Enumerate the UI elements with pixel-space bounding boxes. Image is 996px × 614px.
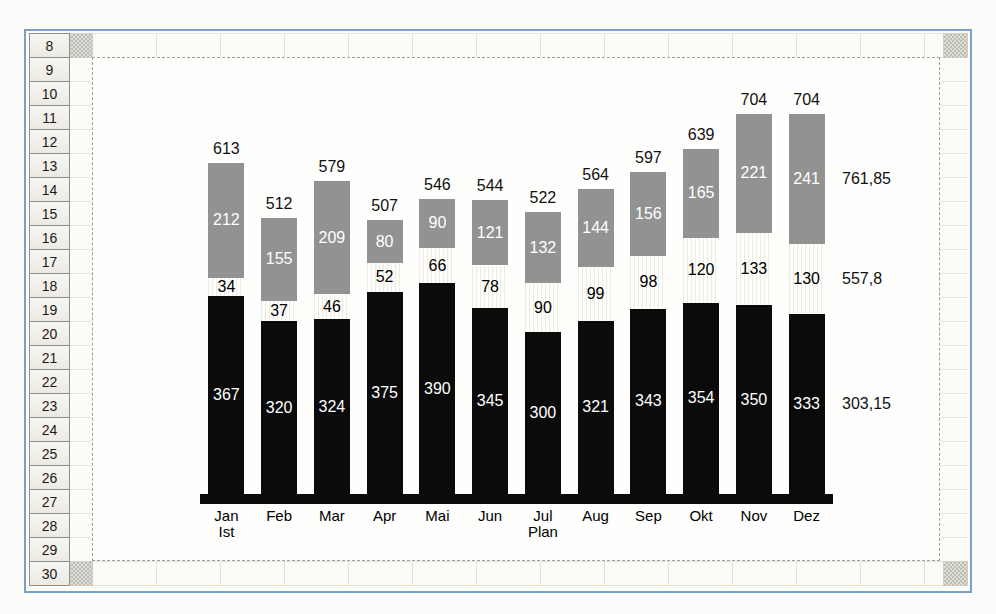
segment-value-label: 132 [530, 240, 557, 256]
bar-segment-middle-white-segment[interactable]: 78 [472, 266, 508, 308]
bar-total-label: 544 [460, 176, 520, 196]
shaded-cell-bottom-right[interactable] [943, 561, 968, 586]
bar-total-label: 512 [249, 194, 309, 214]
segment-value-label: 99 [587, 286, 605, 302]
bar-segment-bottom-black-segment[interactable]: 343 [630, 309, 666, 494]
bar-segment-middle-white-segment[interactable]: 37 [261, 301, 297, 321]
bar-segment-top-gray-segment[interactable]: 144 [578, 189, 614, 267]
row-header-cell[interactable]: 11 [29, 105, 70, 130]
bar-segment-middle-white-segment[interactable]: 130 [789, 244, 825, 314]
segment-value-label: 321 [582, 399, 609, 415]
bar-total-label: 597 [618, 148, 678, 168]
row-header-cell[interactable]: 8 [29, 33, 70, 58]
bar-total-label: 613 [196, 139, 256, 159]
series-right-label: 303,15 [842, 394, 891, 414]
bar-segment-bottom-black-segment[interactable]: 345 [472, 308, 508, 494]
row-header-cell[interactable]: 29 [29, 537, 70, 562]
segment-value-label: 155 [266, 251, 293, 267]
bar-segment-middle-white-segment[interactable]: 66 [419, 248, 455, 284]
row-header-cell[interactable]: 26 [29, 465, 70, 490]
bar-total-label: 507 [355, 196, 415, 216]
bar-segment-middle-white-segment[interactable]: 98 [630, 256, 666, 309]
segment-value-label: 46 [323, 299, 341, 315]
row-header-cell[interactable]: 10 [29, 81, 70, 106]
row-header-cell[interactable]: 23 [29, 393, 70, 418]
bar-segment-top-gray-segment[interactable]: 156 [630, 172, 666, 256]
bar-segment-bottom-black-segment[interactable]: 333 [789, 314, 825, 494]
bar-segment-top-gray-segment[interactable]: 241 [789, 114, 825, 244]
row-header-cell[interactable]: 15 [29, 201, 70, 226]
row-header-cell[interactable]: 20 [29, 321, 70, 346]
bar-segment-bottom-black-segment[interactable]: 324 [314, 319, 350, 494]
shaded-cell-top-right[interactable] [943, 33, 968, 58]
row-header-cell[interactable]: 9 [29, 57, 70, 82]
x-axis-line [200, 494, 833, 504]
shaded-cell-top-left[interactable] [70, 33, 93, 58]
shaded-cell-bottom-left[interactable] [70, 561, 93, 586]
row-header-cell[interactable]: 14 [29, 177, 70, 202]
segment-value-label: 375 [371, 385, 398, 401]
bar-segment-bottom-black-segment[interactable]: 350 [736, 305, 772, 494]
bar-segment-top-gray-segment[interactable]: 80 [367, 220, 403, 263]
row-header-cell[interactable]: 30 [29, 561, 70, 586]
segment-value-label: 144 [582, 220, 609, 236]
row-header-cell[interactable]: 24 [29, 417, 70, 442]
bar-segment-bottom-black-segment[interactable]: 354 [683, 303, 719, 494]
segment-value-label: 78 [481, 279, 499, 295]
month-sublabel: Plan [513, 524, 573, 540]
bar-segment-middle-white-segment[interactable]: 34 [208, 278, 244, 296]
bar-segment-middle-white-segment[interactable]: 46 [314, 294, 350, 319]
bar-segment-bottom-black-segment[interactable]: 390 [419, 283, 455, 494]
row-header-cell[interactable]: 12 [29, 129, 70, 154]
row-header-cell[interactable]: 21 [29, 345, 70, 370]
bar-segment-top-gray-segment[interactable]: 165 [683, 149, 719, 238]
month-sublabel: Ist [196, 524, 256, 540]
bar-segment-bottom-black-segment[interactable]: 320 [261, 321, 297, 494]
bar-segment-top-gray-segment[interactable]: 209 [314, 181, 350, 294]
bar-segment-top-gray-segment[interactable]: 90 [419, 199, 455, 248]
row-header-cell[interactable]: 19 [29, 297, 70, 322]
bar-segment-top-gray-segment[interactable]: 221 [736, 114, 772, 233]
bar-segment-bottom-black-segment[interactable]: 321 [578, 321, 614, 494]
segment-value-label: 80 [376, 234, 394, 250]
bar-segment-middle-white-segment[interactable]: 90 [525, 283, 561, 332]
bar-total-label: 546 [407, 175, 467, 195]
segment-value-label: 156 [635, 206, 662, 222]
segment-value-label: 324 [319, 399, 346, 415]
bar-segment-middle-white-segment[interactable]: 52 [367, 263, 403, 291]
month-label: Sep [618, 508, 678, 524]
segment-value-label: 221 [741, 165, 768, 181]
bar-segment-middle-white-segment[interactable]: 99 [578, 267, 614, 321]
segment-value-label: 34 [217, 279, 235, 295]
bar-segment-top-gray-segment[interactable]: 121 [472, 200, 508, 265]
row-header-cell[interactable]: 27 [29, 489, 70, 514]
chart-object[interactable]: 3673421261332037155512324462095793755280… [92, 57, 940, 561]
row-header-cell[interactable]: 22 [29, 369, 70, 394]
bar-segment-top-gray-segment[interactable]: 155 [261, 218, 297, 302]
month-label: Dez [777, 508, 837, 524]
row-header-column: 8910111213141516171819202122232425262728… [29, 33, 70, 586]
row-header-cell[interactable]: 16 [29, 225, 70, 250]
series-right-label: 557,8 [842, 269, 882, 289]
row-header-cell[interactable]: 18 [29, 273, 70, 298]
segment-value-label: 66 [428, 258, 446, 274]
bar-segment-middle-white-segment[interactable]: 133 [736, 233, 772, 305]
bar-segment-top-gray-segment[interactable]: 132 [525, 212, 561, 283]
segment-value-label: 130 [793, 271, 820, 287]
segment-value-label: 90 [428, 215, 446, 231]
segment-value-label: 52 [376, 269, 394, 285]
segment-value-label: 98 [639, 274, 657, 290]
row-header-cell[interactable]: 25 [29, 441, 70, 466]
row-header-cell[interactable]: 17 [29, 249, 70, 274]
month-label: Jun [460, 508, 520, 524]
bar-segment-bottom-black-segment[interactable]: 375 [367, 292, 403, 495]
bar-segment-top-gray-segment[interactable]: 212 [208, 163, 244, 278]
bar-segment-middle-white-segment[interactable]: 120 [683, 238, 719, 303]
bar-segment-bottom-black-segment[interactable]: 367 [208, 296, 244, 494]
segment-value-label: 300 [530, 405, 557, 421]
bar-total-label: 579 [302, 157, 362, 177]
bar-segment-bottom-black-segment[interactable]: 300 [525, 332, 561, 494]
row-header-cell[interactable]: 13 [29, 153, 70, 178]
row-header-cell[interactable]: 28 [29, 513, 70, 538]
bar-total-label: 704 [777, 90, 837, 110]
